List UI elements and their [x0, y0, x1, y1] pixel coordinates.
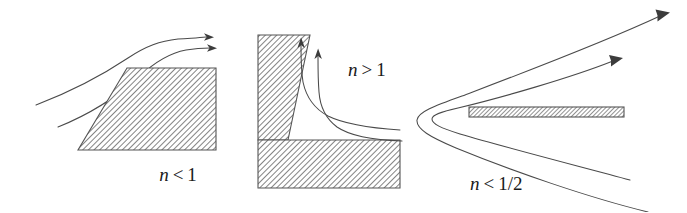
label-right-value: 1/2 — [498, 173, 522, 194]
hatched-trapezoid-left — [78, 68, 216, 150]
label-right-variable: n — [470, 173, 480, 194]
label-left-variable: n — [159, 164, 169, 185]
panel-left-group: n<1 — [36, 33, 217, 185]
streamline-inner-middle — [318, 57, 402, 141]
label-middle-variable: n — [348, 59, 358, 80]
arrow-head-outer-right — [656, 10, 671, 22]
label-n-less-than-half: n<1/2 — [470, 173, 523, 194]
label-n-greater-than-1: n>1 — [348, 59, 386, 80]
hatched-lower-block-middle — [258, 140, 400, 188]
label-right-relation: < — [484, 173, 495, 194]
hatched-plate-right — [469, 107, 624, 117]
streamline-inner-right — [432, 61, 630, 180]
label-n-less-than-1: n<1 — [159, 164, 197, 185]
label-middle-relation: > — [362, 59, 373, 80]
figure-root: n<1 n>1 — [0, 0, 687, 212]
hatched-upper-block-middle — [258, 35, 310, 140]
panel-middle-group: n>1 — [258, 35, 402, 188]
label-middle-value: 1 — [376, 59, 386, 80]
label-left-relation: < — [173, 164, 184, 185]
flow-diagram-svg: n<1 n>1 — [0, 0, 687, 212]
arrow-head-inner-right — [609, 55, 623, 67]
panel-right-group: n<1/2 — [417, 10, 670, 213]
label-left-value: 1 — [187, 164, 197, 185]
